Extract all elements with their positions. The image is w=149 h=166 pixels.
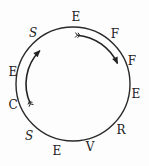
diagram-canvas: EFFERVESCES xyxy=(0,0,149,166)
ring-letter-2: F xyxy=(111,27,119,41)
arrow-fletching-icon xyxy=(75,33,77,38)
letters-group: EFFERVESCES xyxy=(8,10,140,158)
ring-letter-11: S xyxy=(29,26,37,40)
ring-letter-7: E xyxy=(53,144,62,158)
ring-circle xyxy=(16,27,130,141)
arrow-fletching-icon xyxy=(29,104,34,107)
letter-ring-diagram: EFFERVESCES xyxy=(0,0,149,166)
ring-letter-10: E xyxy=(9,65,18,79)
ring-letter-3: F xyxy=(128,54,136,68)
ring-letter-8: S xyxy=(25,129,33,143)
upward-arrow-left xyxy=(26,50,40,107)
ring-letter-5: R xyxy=(116,123,126,137)
ring-letter-6: V xyxy=(85,140,95,154)
ring-letter-1: E xyxy=(72,10,81,24)
ring-letter-9: C xyxy=(8,98,17,112)
arrows-group xyxy=(26,33,118,107)
arrow-shaft xyxy=(26,51,40,104)
ring-letter-4: E xyxy=(132,87,141,101)
